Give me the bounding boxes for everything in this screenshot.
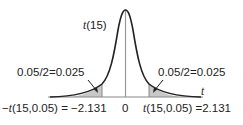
left-critical-label: −t(15,0.05) = −2.131 [2, 103, 107, 115]
right-area-label: 0.05/2=0.025 [158, 67, 225, 79]
right-critical-label: t(15,0.05) =2.131 [143, 103, 231, 115]
axis-label: t [201, 86, 204, 98]
center-tick-label: 0 [122, 103, 128, 115]
left-area-label: 0.05/2=0.025 [17, 67, 84, 79]
curve-label: t(15) [83, 20, 107, 32]
